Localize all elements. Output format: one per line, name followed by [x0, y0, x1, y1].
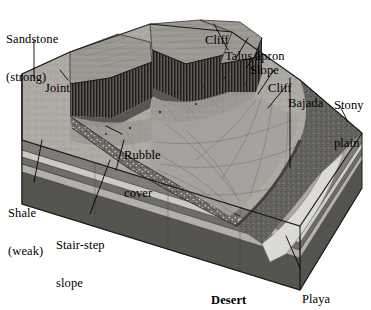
- label-joint-line1: Joint: [45, 82, 70, 95]
- label-bajada-line1: Bajada: [288, 97, 323, 110]
- caption-desert-text: Desert: [211, 294, 246, 307]
- label-shale: Shale (weak): [8, 182, 43, 282]
- label-rubble-cover: Rubble cover: [124, 124, 161, 224]
- label-joint: Joint: [45, 57, 70, 120]
- label-stony-plain-line2: plain: [334, 137, 364, 150]
- label-rubble-cover-line1: Rubble: [124, 149, 161, 162]
- label-stair-step-slope: Stair-step slope: [56, 214, 105, 310]
- label-sandstone-line1: Sandstone: [6, 33, 58, 46]
- label-stony-plain-line1: Stony: [334, 99, 364, 112]
- label-shale-line1: Shale: [8, 207, 43, 220]
- label-shale-line2: (weak): [8, 245, 43, 258]
- label-stair-step-slope-line2: slope: [56, 277, 105, 290]
- label-stony-plain: Stony plain: [334, 74, 364, 174]
- label-rubble-cover-line2: cover: [124, 187, 161, 200]
- label-stair-step-slope-line1: Stair-step: [56, 239, 105, 252]
- label-bajada: Bajada: [288, 72, 323, 135]
- label-playa-line1: Playa: [302, 293, 330, 306]
- caption-desert: Desert: [211, 269, 246, 310]
- label-playa: Playa: [302, 268, 330, 310]
